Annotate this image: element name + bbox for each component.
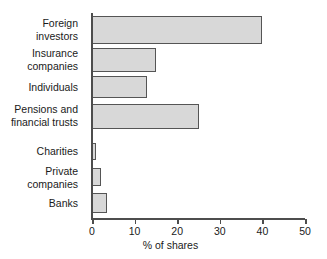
category-label: Banks [0,197,78,210]
category-label: Charities [0,145,78,158]
x-tick-mark [92,219,94,224]
x-tick-label: 10 [120,225,150,237]
x-tick-label: 40 [247,225,277,237]
x-tick-mark [135,219,137,224]
category-label: Foreign investors [0,17,78,42]
bar [92,193,107,213]
bar-fill [92,104,199,129]
x-axis-title-text: % of shares [143,239,198,251]
bar-chart: Foreign investorsInsurance companiesIndi… [0,0,327,259]
bar-fill [92,168,101,186]
bar [92,76,147,98]
bar-fill [92,48,156,72]
x-tick-mark [177,219,179,224]
bar [92,48,156,72]
bar [92,168,101,186]
x-axis-title: % of shares [0,239,327,251]
category-label: Insurance companies [0,47,78,72]
x-tick-label: 20 [162,225,192,237]
bar [92,16,262,44]
bar-fill [92,143,96,160]
bar-fill [92,193,107,213]
x-tick-mark [262,219,264,224]
x-tick-mark [220,219,222,224]
bar-fill [92,16,262,44]
x-tick-mark [305,219,307,224]
bar [92,143,96,160]
bar [92,104,199,129]
category-label: Individuals [0,81,78,94]
x-tick-label: 30 [205,225,235,237]
x-axis-line [91,218,305,220]
x-tick-label: 0 [77,225,107,237]
category-label: Pensions and financial trusts [0,103,78,128]
bar-fill [92,76,147,98]
y-axis-line [91,13,93,218]
category-label: Private companies [0,165,78,190]
x-tick-label: 50 [290,225,320,237]
